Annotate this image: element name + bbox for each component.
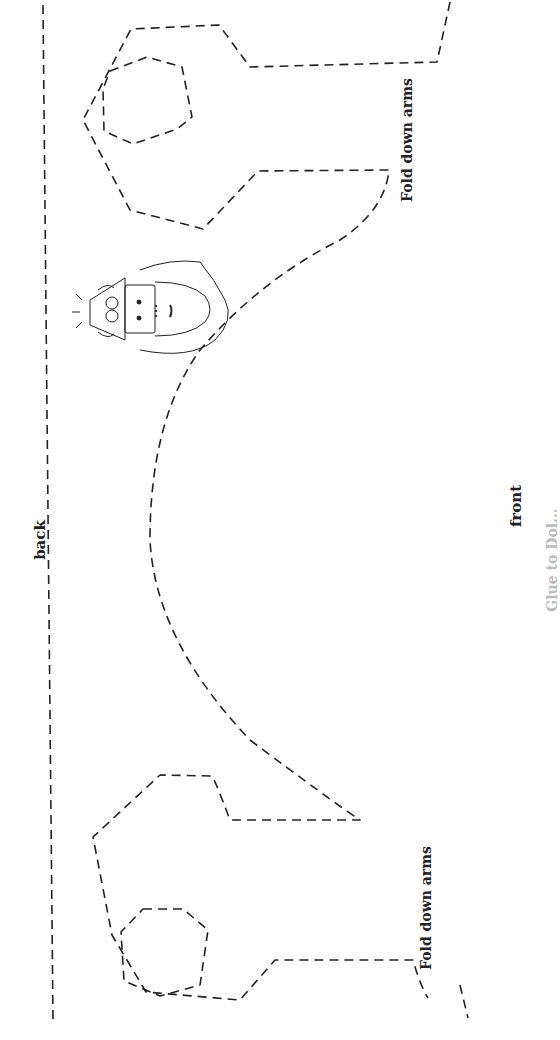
fold-down-arms-label-bottom: Fold down arms <box>418 846 434 970</box>
front-label: front <box>507 485 525 527</box>
top-arm-cutline <box>83 2 450 1000</box>
bottom-right-cutline <box>460 985 468 1018</box>
fold-down-arms-label-top: Fold down arms <box>399 78 415 202</box>
back-label: back <box>31 520 49 560</box>
bottom-hole-cutline <box>121 909 208 996</box>
top-hole-cutline <box>103 57 192 144</box>
clipped-edge-label: Glue to Dol... <box>544 508 560 611</box>
face-illustration-icon <box>72 261 228 353</box>
back-fold-line <box>43 5 53 1020</box>
